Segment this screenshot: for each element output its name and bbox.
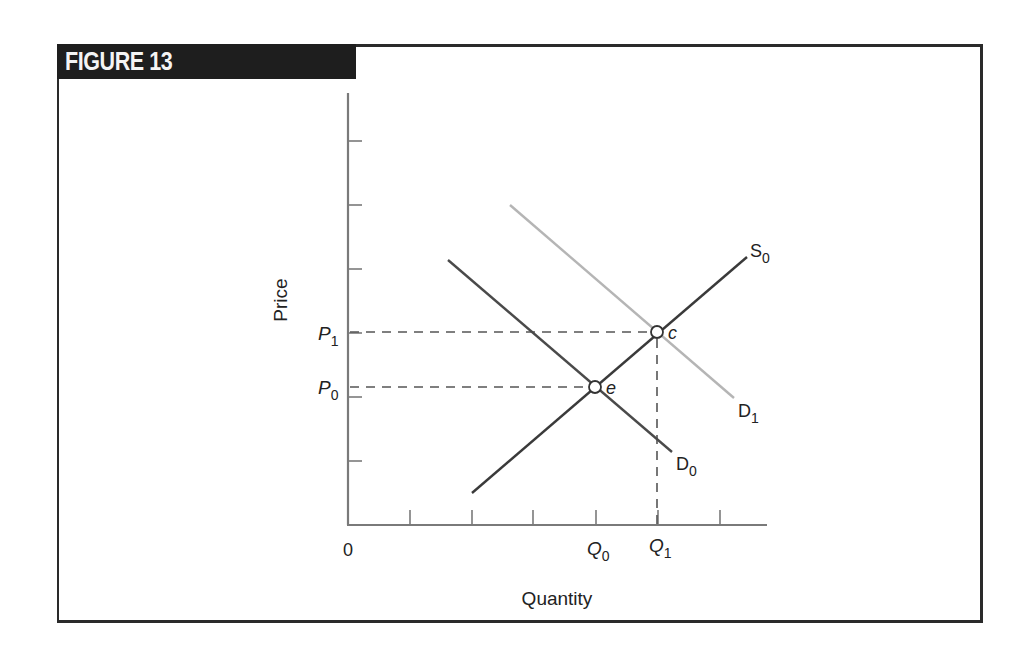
origin-label: 0 bbox=[343, 540, 353, 560]
y-tick-label-p0: P0 bbox=[318, 377, 339, 403]
curve-label-s0: S0 bbox=[750, 241, 770, 266]
point-label-e: e bbox=[606, 378, 616, 398]
reference-lines bbox=[350, 332, 657, 525]
x-tick-label-q0: Q0 bbox=[587, 538, 610, 564]
equilibrium-point-c bbox=[651, 326, 663, 338]
demand-curve-d1 bbox=[510, 205, 734, 398]
y-axis-ticks bbox=[348, 141, 362, 461]
x-tick-label-q1: Q1 bbox=[649, 535, 672, 561]
equilibrium-point-e bbox=[589, 381, 601, 393]
supply-demand-chart: c e S0 D1 D0 P1 P0 Q0 Q1 0 Quantity Pric… bbox=[0, 0, 1030, 663]
y-tick-label-p1: P1 bbox=[318, 323, 339, 349]
curve-label-d1: D1 bbox=[738, 401, 759, 426]
axes bbox=[347, 93, 767, 525]
curve-label-d0: D0 bbox=[676, 454, 697, 479]
point-label-c: c bbox=[668, 323, 677, 343]
demand-curve-d0 bbox=[448, 260, 672, 452]
x-axis-ticks bbox=[410, 510, 720, 525]
y-axis-title: Price bbox=[270, 278, 291, 321]
x-axis-title: Quantity bbox=[522, 588, 593, 609]
